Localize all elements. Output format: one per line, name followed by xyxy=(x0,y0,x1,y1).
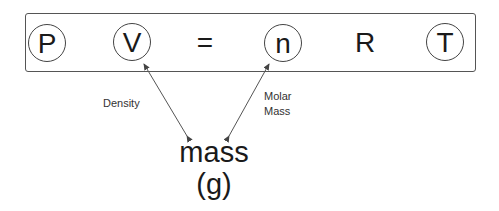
density-arrow xyxy=(144,64,187,136)
mass-unit: (g) xyxy=(154,168,274,201)
molar-mass-arrow xyxy=(229,64,269,136)
density-label: Density xyxy=(103,96,140,111)
molar-mass-label: Molar Mass xyxy=(264,89,292,119)
mass-label: mass xyxy=(154,136,274,169)
molar-mass-label-line1: Molar xyxy=(264,89,292,104)
molar-mass-label-line2: Mass xyxy=(264,104,292,119)
